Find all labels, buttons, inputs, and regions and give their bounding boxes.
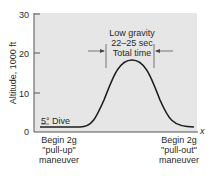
annotation-line-1: Low gravity xyxy=(94,28,170,38)
y-tick-label-10: 10 xyxy=(19,89,29,99)
annotation-line-2: 22–25 sec xyxy=(94,38,170,48)
pull-up-line-3: maneuver xyxy=(36,155,82,165)
y-axis-label: Altitude, 1000 ft xyxy=(8,38,18,108)
pull-out-line-1: Begin 2g xyxy=(154,135,204,145)
annotation-line-3: Total time xyxy=(94,48,170,58)
y-tick-label-30: 30 xyxy=(19,10,29,20)
pull-out-label: Begin 2g "pull-out" maneuver xyxy=(154,135,204,165)
dive-label: 5° Dive xyxy=(41,116,70,126)
pull-out-line-3: maneuver xyxy=(154,155,204,165)
pull-up-line-2: "pull-up" xyxy=(36,145,82,155)
pull-up-line-1: Begin 2g xyxy=(36,135,82,145)
pull-out-line-2: "pull-out" xyxy=(154,145,204,155)
pull-up-label: Begin 2g "pull-up" maneuver xyxy=(36,135,82,165)
y-tick-label-20: 20 xyxy=(19,49,29,59)
low-gravity-annotation: Low gravity 22–25 sec Total time xyxy=(94,28,170,58)
y-tick-label-0: 0 xyxy=(24,127,29,137)
